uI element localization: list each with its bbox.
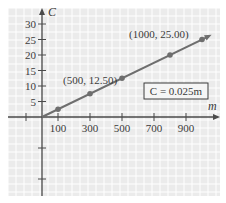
svg-text:C = 0.025m: C = 0.025m <box>150 85 203 97</box>
svg-text:700: 700 <box>146 122 163 134</box>
cost-line-chart: 10030050070090051015202530 (500, 12.50)(… <box>0 0 226 203</box>
svg-text:15: 15 <box>25 65 37 77</box>
equation-box: C = 0.025m <box>144 83 208 99</box>
svg-text:30: 30 <box>25 18 37 30</box>
svg-text:500: 500 <box>114 122 131 134</box>
svg-text:25: 25 <box>25 34 37 46</box>
svg-text:20: 20 <box>25 49 37 61</box>
svg-text:300: 300 <box>82 122 99 134</box>
svg-text:900: 900 <box>178 122 195 134</box>
svg-text:5: 5 <box>31 96 37 108</box>
svg-text:(1000, 25.00): (1000, 25.00) <box>129 28 189 41</box>
x-axis-label: m <box>208 99 217 113</box>
svg-text:10: 10 <box>25 80 37 92</box>
svg-text:100: 100 <box>50 122 67 134</box>
y-axis-label: C <box>48 5 57 19</box>
svg-text:(500, 12.50): (500, 12.50) <box>63 74 117 87</box>
